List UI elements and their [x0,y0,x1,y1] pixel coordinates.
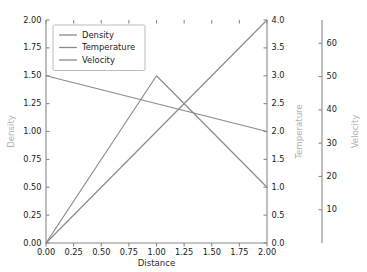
svg-text:0.00: 0.00 [37,247,55,257]
svg-text:1.50: 1.50 [203,247,221,257]
svg-text:2.00: 2.00 [23,15,41,25]
svg-text:2.0: 2.0 [272,126,285,136]
svg-text:1.25: 1.25 [175,247,193,257]
left-y-axis-label: Density [6,115,16,148]
svg-text:1.75: 1.75 [230,247,248,257]
svg-text:30: 30 [327,138,337,148]
svg-text:1.00: 1.00 [147,247,165,257]
svg-text:0.25: 0.25 [65,247,83,257]
svg-text:4.0: 4.0 [272,15,285,25]
svg-text:1.50: 1.50 [23,70,41,80]
svg-text:1.0: 1.0 [272,182,285,192]
temperature-axis-label: Temperature [294,104,304,159]
svg-text:0.50: 0.50 [92,247,110,257]
velocity-axis-ticks: 102030405060 [319,38,337,214]
svg-text:40: 40 [327,104,337,114]
legend-label-velocity: Velocity [82,55,115,65]
svg-text:50: 50 [327,71,337,81]
svg-text:10: 10 [327,204,337,214]
chart-legend: DensityTemperatureVelocity [53,25,145,71]
svg-text:1.5: 1.5 [272,154,285,164]
svg-text:2.00: 2.00 [258,247,276,257]
svg-text:0.25: 0.25 [23,210,41,220]
svg-text:0.5: 0.5 [272,210,285,220]
svg-text:20: 20 [327,171,337,181]
svg-text:0.00: 0.00 [23,238,41,248]
svg-text:3.0: 3.0 [272,70,285,80]
legend-label-temperature: Temperature [81,42,135,52]
svg-text:1.00: 1.00 [23,126,41,136]
chart-figure: 0.000.250.500.751.001.251.501.752.00 0.0… [0,0,367,272]
x-axis-label: Distance [138,258,176,268]
multi-axis-line-chart: 0.000.250.500.751.001.251.501.752.00 0.0… [0,0,367,272]
svg-text:1.25: 1.25 [23,98,41,108]
svg-text:0.0: 0.0 [272,238,285,248]
velocity-axis-label: Velocity [350,115,360,149]
svg-text:2.5: 2.5 [272,98,285,108]
svg-text:0.50: 0.50 [23,182,41,192]
svg-text:0.75: 0.75 [23,154,41,164]
legend-label-density: Density [82,30,114,40]
svg-text:60: 60 [327,38,337,48]
svg-text:3.5: 3.5 [272,42,285,52]
svg-text:1.75: 1.75 [23,42,41,52]
svg-text:0.75: 0.75 [120,247,138,257]
